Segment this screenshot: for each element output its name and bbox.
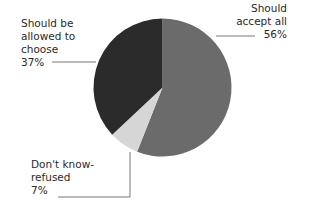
label-text: Should be <box>21 17 75 30</box>
label-text: accept all <box>236 15 287 28</box>
label-should-be-allowed-to-choose: Should be allowed to choose 37% <box>21 17 75 69</box>
label-percent: 7% <box>31 184 94 197</box>
label-should-accept-all: Should accept all 56% <box>236 2 287 41</box>
label-text: Don't know- <box>31 158 94 171</box>
label-percent: 56% <box>236 28 287 41</box>
label-text: Should <box>236 2 287 15</box>
pie-slices <box>93 18 231 156</box>
label-text: choose <box>21 43 75 56</box>
label-dont-know-refused: Don't know- refused 7% <box>31 158 94 197</box>
label-text: refused <box>31 171 94 184</box>
label-percent: 37% <box>21 56 75 69</box>
label-text: allowed to <box>21 30 75 43</box>
